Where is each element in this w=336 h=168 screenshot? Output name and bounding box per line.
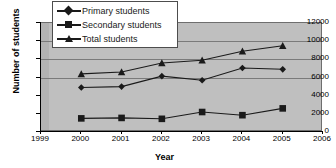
y-tick-label: 8000 [295,54,329,62]
y-tick-mark [36,40,40,41]
y-tick-label: 2000 [295,109,329,117]
legend-item-total[interactable]: Total students [56,32,174,46]
legend-label: Primary students [82,5,150,17]
y-tick-label: 4000 [295,91,329,99]
diamond-marker-icon [56,5,82,17]
x-axis-title: Year [0,152,329,162]
square-data-point [199,109,206,116]
series-square [78,105,286,122]
x-tick-mark [322,131,323,134]
square-marker-icon [56,19,82,31]
y-tick-label: 6000 [295,73,329,81]
diamond-data-point [118,83,125,90]
chart-legend: Primary students Secondary students Tota… [52,1,178,48]
x-tick-label: 2000 [60,134,100,143]
square-data-point [78,115,85,122]
x-tick-mark [40,131,41,134]
legend-label: Total students [82,33,138,45]
square-data-point [239,112,246,119]
series-diamond [78,65,286,91]
y-tick-mark [36,113,40,114]
series-line [81,108,282,118]
diamond-data-point [199,77,206,84]
x-tick-mark [121,131,122,134]
square-data-point [118,115,125,122]
y-tick-label: 10000 [295,36,329,44]
x-tick-label: 2002 [141,134,181,143]
legend-label: Secondary students [82,19,162,31]
x-axis-line [40,131,323,132]
x-tick-mark [161,131,162,134]
y-tick-mark [36,58,40,59]
y-axis-title: Number of students [11,0,21,103]
diamond-data-point [279,66,286,73]
triangle-marker-icon [56,33,82,45]
square-data-point [279,105,286,112]
y-tick-mark [36,77,40,78]
x-tick-label: 1999 [20,134,60,143]
x-tick-mark [201,131,202,134]
square-data-point [159,116,166,123]
series-line [81,46,282,74]
x-tick-label: 2003 [181,134,221,143]
y-tick-mark [36,95,40,96]
x-tick-label: 2001 [101,134,141,143]
diamond-data-point [78,84,85,91]
diamond-data-point [239,65,246,72]
x-tick-label: 2006 [302,134,336,143]
x-tick-mark [282,131,283,134]
x-tick-mark [80,131,81,134]
legend-item-secondary[interactable]: Secondary students [56,18,174,32]
x-tick-label: 2005 [262,134,302,143]
x-tick-mark [241,131,242,134]
y-tick-mark [36,22,40,23]
legend-item-primary[interactable]: Primary students [56,4,174,18]
x-tick-label: 2004 [221,134,261,143]
series-line [81,68,282,88]
y-axis-line [40,22,41,132]
diamond-data-point [159,73,166,80]
y-tick-label: 12000 [295,18,329,26]
